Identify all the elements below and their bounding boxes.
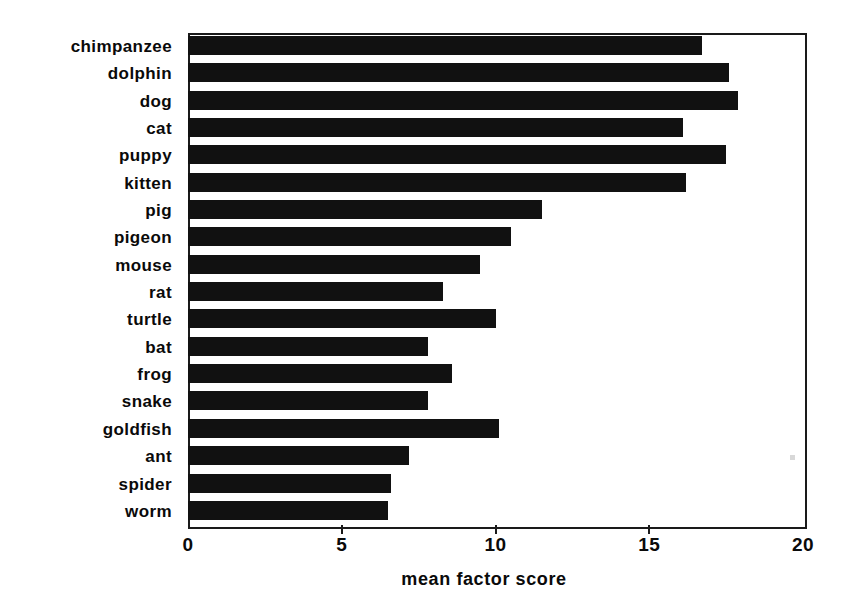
bar xyxy=(188,446,409,465)
bar-row xyxy=(188,252,803,279)
bar xyxy=(188,36,702,55)
bar-row xyxy=(188,60,803,87)
bar-row xyxy=(188,115,803,142)
category-label: rat xyxy=(0,279,182,306)
bar xyxy=(188,337,428,356)
x-tick-mark xyxy=(648,525,650,534)
bar-row xyxy=(188,33,803,60)
category-label: turtle xyxy=(0,306,182,333)
bar-row xyxy=(188,224,803,251)
scan-artifact-speck xyxy=(790,455,795,460)
bar-chart: chimpanzeedolphindogcatpuppykittenpigpig… xyxy=(0,0,853,613)
category-label: pigeon xyxy=(0,224,182,251)
bar xyxy=(188,419,499,438)
category-label: pig xyxy=(0,197,182,224)
bar xyxy=(188,391,428,410)
bar-row xyxy=(188,361,803,388)
bar xyxy=(188,255,480,274)
bar-row xyxy=(188,416,803,443)
category-label: dog xyxy=(0,88,182,115)
bar-row xyxy=(188,471,803,498)
category-label: cat xyxy=(0,115,182,142)
bar-row xyxy=(188,306,803,333)
category-label: snake xyxy=(0,388,182,415)
category-label: chimpanzee xyxy=(0,33,182,60)
bar xyxy=(188,364,452,383)
category-label: dolphin xyxy=(0,60,182,87)
bar-row xyxy=(188,443,803,470)
bar xyxy=(188,118,683,137)
bar xyxy=(188,91,738,110)
x-tick-mark xyxy=(341,525,343,534)
bar xyxy=(188,282,443,301)
bars-area xyxy=(188,33,803,525)
category-label: spider xyxy=(0,471,182,498)
x-tick-mark xyxy=(495,525,497,534)
bar-row xyxy=(188,197,803,224)
category-label: kitten xyxy=(0,170,182,197)
bar-row xyxy=(188,142,803,169)
bar xyxy=(188,173,686,192)
x-tick-label: 15 xyxy=(638,534,660,556)
x-tick-label: 20 xyxy=(792,534,814,556)
x-axis-title: mean factor score xyxy=(0,569,853,590)
x-axis-title-text: mean factor score xyxy=(401,569,566,590)
x-tick-label: 10 xyxy=(484,534,506,556)
category-label: ant xyxy=(0,443,182,470)
category-label: worm xyxy=(0,498,182,525)
bar-row xyxy=(188,170,803,197)
bar xyxy=(188,474,391,493)
category-label: frog xyxy=(0,361,182,388)
bar xyxy=(188,309,496,328)
bar-row xyxy=(188,88,803,115)
x-tick-label: 5 xyxy=(336,534,347,556)
bar xyxy=(188,200,542,219)
category-axis-labels: chimpanzeedolphindogcatpuppykittenpigpig… xyxy=(0,33,182,525)
category-label: puppy xyxy=(0,142,182,169)
bar xyxy=(188,227,511,246)
bar-row xyxy=(188,388,803,415)
category-label: mouse xyxy=(0,252,182,279)
bar xyxy=(188,145,726,164)
bar-row xyxy=(188,498,803,525)
bar xyxy=(188,63,729,82)
category-label: goldfish xyxy=(0,416,182,443)
category-label: bat xyxy=(0,334,182,361)
x-tick-label: 0 xyxy=(182,534,193,556)
bar-row xyxy=(188,334,803,361)
bar xyxy=(188,501,388,520)
bar-row xyxy=(188,279,803,306)
